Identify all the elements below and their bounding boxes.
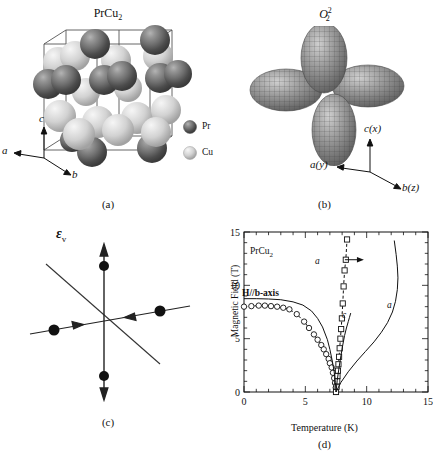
x-axis-label: Temperature (K)	[216, 422, 433, 433]
strain-dot-top	[99, 261, 109, 271]
panel-a-title: PrCu2	[0, 6, 216, 22]
data-point-circle	[268, 303, 273, 308]
annotation-a-arrow-label: a	[315, 256, 320, 266]
strain-mode-diagram	[20, 242, 200, 402]
panel-a-caption: (a)	[0, 198, 216, 210]
strain-mode-svg	[20, 242, 200, 402]
panel-d-caption: (d)	[216, 438, 433, 450]
panel-orbital: O22	[216, 0, 433, 230]
annotation-curve-a: a	[387, 300, 392, 310]
data-point-circle	[256, 303, 261, 308]
data-point-square	[344, 237, 349, 242]
data-point-circle	[301, 319, 306, 324]
annotation-arrow-head	[357, 257, 364, 263]
strain-dot-right	[155, 306, 166, 317]
data-point-square	[342, 268, 347, 273]
panel-c-caption: (c)	[0, 416, 216, 428]
pr-sphere-icon	[183, 120, 197, 134]
data-point-circle	[274, 304, 279, 309]
data-point-square	[338, 336, 343, 341]
data-point-circle	[281, 305, 286, 310]
y-tick-label: 5	[235, 333, 240, 344]
annotation-prcu2: PrCu2	[250, 246, 273, 259]
panel-b-title: O22	[216, 6, 433, 23]
data-point-circle	[241, 304, 246, 309]
data-point-circle	[262, 303, 267, 308]
annotation-prcu2-base: PrCu	[250, 246, 270, 256]
annotation-prcu2-sub: 2	[270, 251, 274, 259]
data-point-square	[340, 301, 345, 306]
panel-a-axis-triad: c a b	[8, 118, 88, 184]
axis-label-c-x: c(x)	[364, 122, 381, 134]
orbital-lobe-top	[301, 26, 347, 93]
panel-crystal-structure: PrCu2	[0, 0, 216, 230]
annotation-field-direction: H//b-axis	[242, 288, 279, 298]
x-tick-label: 10	[362, 396, 372, 407]
panel-b-title-sub: 2	[326, 14, 330, 23]
y-tick-label: 0	[235, 387, 240, 398]
data-point-circle	[315, 337, 320, 342]
panel-a-title-base: PrCu	[94, 6, 119, 20]
data-point-square	[341, 284, 346, 289]
legend-label-cu: Cu	[202, 147, 213, 157]
axis-label-a-y: a(y)	[310, 158, 328, 170]
x-tick-label: 15	[423, 396, 433, 407]
axis-label-c: c	[39, 112, 44, 124]
data-point-circle	[287, 307, 292, 312]
panel-phase-diagram: Magnetic Field (T) Temperature (K) 05101…	[216, 230, 433, 463]
data-point-square	[339, 326, 344, 331]
data-point-circle	[306, 325, 311, 330]
phase-diagram-svg: 051015051015	[216, 222, 433, 422]
legend-label-pr: Pr	[202, 121, 210, 131]
data-point-circle	[311, 332, 316, 337]
strain-dot-left	[49, 325, 60, 336]
y-tick-label: 10	[230, 280, 240, 291]
panel-b-caption: (b)	[216, 198, 433, 210]
x-tick-label: 5	[303, 396, 308, 407]
strain-dot-bottom	[99, 371, 109, 381]
cu-sphere-icon	[183, 146, 197, 160]
panel-b-axis-triad: c(x) a(y) b(z)	[320, 128, 430, 198]
axis-label-a: a	[2, 144, 8, 156]
annotation-curve-c: c	[342, 310, 346, 320]
panel-strain-mode: εv (c)	[0, 230, 216, 463]
y-tick-label: 15	[230, 227, 240, 238]
axis-label-b: b	[72, 168, 78, 180]
data-point-circle	[294, 311, 299, 316]
x-tick-label: 0	[242, 396, 247, 407]
axis-label-b-z: b(z)	[402, 181, 419, 193]
data-point-circle	[249, 303, 254, 308]
